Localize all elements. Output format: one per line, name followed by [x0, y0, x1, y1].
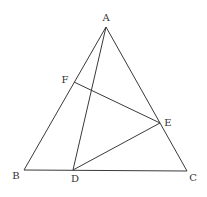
segment-BC: [24, 170, 187, 171]
label-C: C: [189, 172, 197, 183]
geometry-diagram: A B C D E F: [0, 0, 207, 197]
segment-FE: [74, 82, 160, 123]
label-B: B: [12, 170, 19, 181]
label-F: F: [62, 74, 69, 85]
label-D: D: [71, 173, 79, 184]
segment-AB: [24, 27, 106, 170]
segment-DE: [73, 123, 160, 170]
label-A: A: [101, 12, 110, 23]
segment-AC: [106, 27, 187, 171]
point-labels: A B C D E F: [12, 12, 197, 184]
segment-AD: [73, 27, 106, 170]
label-E: E: [164, 117, 171, 128]
segments: [24, 27, 187, 171]
